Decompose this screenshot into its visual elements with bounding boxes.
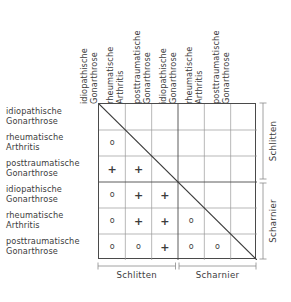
column-header-line1: idiopathische bbox=[158, 48, 168, 104]
column-header-line1: posttraumatische bbox=[131, 30, 141, 104]
column-header-line2: Arthritis bbox=[115, 47, 125, 104]
column-header-4: idiopathischeGonarthrose bbox=[151, 18, 177, 104]
bracket-label-bottom-scharnier: Scharnier bbox=[179, 270, 256, 280]
row-header-5: rheumatischeArthritis bbox=[6, 210, 96, 230]
bracket-label-bottom-schlitten: Schlitten bbox=[98, 270, 176, 280]
column-header-line1: rheumatische bbox=[105, 47, 115, 104]
diagram-canvas: idiopathischeGonarthroserheumatischeArth… bbox=[0, 0, 291, 302]
column-header-line1: idiopathische bbox=[79, 48, 89, 104]
column-header-3: posttraumatischeGonarthrose bbox=[125, 18, 151, 104]
row-header-line1: posttraumatische bbox=[6, 158, 80, 168]
comparison-matrix: o++o++o++ooo+oo bbox=[98, 103, 256, 259]
bracket-label-right-schlitten: Schlitten bbox=[268, 111, 278, 171]
column-header-line2: Arthritis bbox=[194, 47, 204, 104]
row-header-line2: Gonarthrose bbox=[6, 116, 96, 126]
row-header-line1: idiopathische bbox=[6, 106, 62, 116]
column-header-line2: Gonarthrose bbox=[220, 30, 230, 104]
column-header-1: idiopathischeGonarthrose bbox=[72, 18, 98, 104]
row-header-line2: Gonarthrose bbox=[6, 246, 96, 256]
row-header-line1: rheumatische bbox=[6, 210, 63, 220]
column-header-5: rheumatischeArthritis bbox=[177, 18, 203, 104]
row-header-1: idiopathischeGonarthrose bbox=[6, 106, 96, 126]
row-header-line2: Gonarthrose bbox=[6, 168, 96, 178]
row-header-6: posttraumatischeGonarthrose bbox=[6, 236, 96, 256]
row-header-line2: Arthritis bbox=[6, 142, 96, 152]
row-header-line1: rheumatische bbox=[6, 132, 63, 142]
matrix-gridlines bbox=[99, 104, 257, 260]
row-header-line1: posttraumatische bbox=[6, 236, 80, 246]
bracket-label-right-scharnier: Scharnier bbox=[268, 191, 278, 251]
row-header-2: rheumatischeArthritis bbox=[6, 132, 96, 152]
row-header-line2: Gonarthrose bbox=[6, 194, 96, 204]
row-header-line2: Arthritis bbox=[6, 220, 96, 230]
column-header-6: posttraumatischeGonarthrose bbox=[204, 18, 230, 104]
row-header-3: posttraumatischeGonarthrose bbox=[6, 158, 96, 178]
column-header-line1: posttraumatische bbox=[210, 30, 220, 104]
column-header-line1: rheumatische bbox=[184, 47, 194, 104]
column-header-2: rheumatischeArthritis bbox=[98, 18, 124, 104]
row-header-4: idiopathischeGonarthrose bbox=[6, 184, 96, 204]
row-header-line1: idiopathische bbox=[6, 184, 62, 194]
